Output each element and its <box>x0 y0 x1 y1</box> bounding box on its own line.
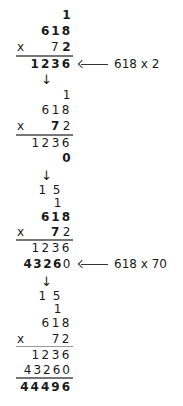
partial-product: 1236 <box>31 241 72 256</box>
annotation-text: 618 x 2 <box>114 57 159 71</box>
multiplicand: 618 <box>41 24 72 39</box>
annotation-text: 618 x 70 <box>114 257 167 271</box>
step3-annotation: 618 x 70 <box>78 257 167 272</box>
step3-multiplier-row: x 72 <box>0 225 183 240</box>
step2-multiplicand: 618 <box>0 103 183 118</box>
carry-digit: 1 <box>54 302 63 317</box>
times-sign: x <box>17 119 24 134</box>
times-sign: x <box>17 332 24 347</box>
times-sign: x <box>17 40 24 55</box>
step1-multiplier-row: x 72 <box>0 40 183 55</box>
step2-partial1-row: 1236 <box>0 136 183 151</box>
multiplicand: 618 <box>42 316 72 331</box>
partial-product: 1236 <box>31 136 72 151</box>
multiplier: 72 <box>52 332 72 347</box>
multiplier: 72 <box>51 40 72 55</box>
step3-partial1-row: 1236 <box>0 241 183 256</box>
partial-product-2: 43260 <box>24 363 72 378</box>
times-sign: x <box>17 225 24 240</box>
left-arrow-icon <box>78 57 108 72</box>
left-arrow-icon <box>78 257 108 272</box>
carry-digit: 1 <box>54 196 63 211</box>
carry-digit: 1 <box>62 8 72 23</box>
step1-multiplicand: 618 <box>0 24 183 39</box>
multiplicand: 618 <box>42 103 72 118</box>
multiplier: 72 <box>51 119 72 134</box>
partial-product: 1236 <box>31 57 72 72</box>
step4-partial2-row: 43260 <box>0 363 183 378</box>
step4-multiplier-row: x 72 <box>0 332 183 347</box>
multiplier: 72 <box>51 225 72 240</box>
step1-carry: 1 <box>0 8 183 23</box>
partial-product-2: 0 <box>62 151 72 166</box>
step3-carry2: 1 <box>0 196 183 211</box>
step4-underline <box>16 346 73 347</box>
step2-partial2-row: 0 <box>0 151 183 166</box>
step4-carry2: 1 <box>0 302 183 317</box>
step4-result-row: 44496 <box>0 380 183 395</box>
final-result: 44496 <box>20 380 72 395</box>
multiplicand: 618 <box>41 210 72 225</box>
step1-partial-row: 1236 618 x 2 <box>0 57 183 72</box>
down-arrow-icon: ↓ <box>41 274 52 289</box>
down-arrow-icon: ↓ <box>41 168 52 183</box>
step2-multiplier-row: x 72 <box>0 119 183 134</box>
step1-annotation: 618 x 2 <box>78 57 159 72</box>
step4-sum-underline <box>16 377 73 379</box>
step2-carry: 1 <box>0 88 183 103</box>
down-arrow-icon: ↓ <box>41 72 52 87</box>
carry-digit: 1 <box>63 88 72 103</box>
step3-multiplicand: 618 <box>0 210 183 225</box>
partial-product: 1236 <box>31 348 72 363</box>
step4-multiplicand: 618 <box>0 316 183 331</box>
step4-partial1-row: 1236 <box>0 348 183 363</box>
step3-partial2-row: 43260 618 x 70 <box>0 257 183 272</box>
partial-product-2: 43260 <box>23 257 72 272</box>
